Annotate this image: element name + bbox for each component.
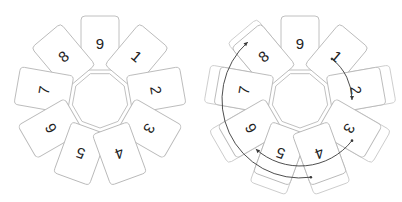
right-card-circle-with-arrows: 981726354 <box>204 16 396 195</box>
card-diagram-canvas: 981726354 981726354 <box>0 0 402 202</box>
center-nonagon <box>72 74 127 128</box>
arrow-start-dot <box>310 176 313 179</box>
card-number: 9 <box>96 35 104 52</box>
left-card-circle: 981726354 <box>14 16 186 185</box>
center-nonagon <box>272 74 327 128</box>
card-number: 9 <box>296 35 304 52</box>
arrow-start-dot <box>331 58 334 61</box>
arrow-start-dot <box>351 139 354 142</box>
